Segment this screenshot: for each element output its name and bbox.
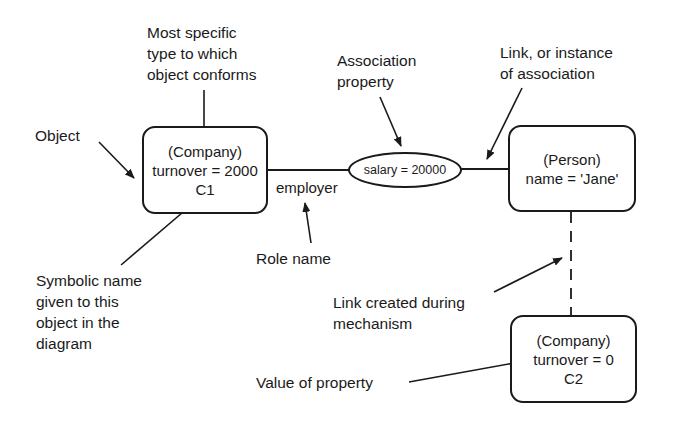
annotation-link-instance: Link, or instance of association bbox=[500, 42, 613, 84]
annotation-object: Object bbox=[35, 125, 80, 146]
annotation-association-property: Association property bbox=[337, 50, 416, 92]
annotation-symbolic-name: Symbolic name given to this object in th… bbox=[36, 270, 142, 354]
object-symbol: C2 bbox=[564, 369, 583, 388]
object-person: (Person) name = 'Jane' bbox=[508, 125, 636, 212]
annotation-link-created: Link created during mechanism bbox=[333, 292, 465, 334]
annotation-role-name: Role name bbox=[256, 248, 331, 269]
object-c2: (Company) turnover = 0 C2 bbox=[510, 315, 637, 403]
object-c1: (Company) turnover = 2000 C1 bbox=[142, 126, 268, 214]
object-type-label: (Person) bbox=[543, 150, 601, 169]
role-name-label: employer bbox=[276, 177, 338, 198]
object-property: name = 'Jane' bbox=[526, 169, 619, 188]
annotation-value-of-property: Value of property bbox=[256, 372, 373, 393]
object-property: turnover = 2000 bbox=[152, 161, 258, 180]
object-property: turnover = 0 bbox=[533, 350, 613, 369]
association-property-ellipse: salary = 20000 bbox=[348, 152, 462, 188]
association-property-value: salary = 20000 bbox=[364, 163, 446, 177]
object-type-label: (Company) bbox=[536, 331, 610, 350]
object-type-label: (Company) bbox=[168, 142, 242, 161]
annotation-most-specific-type: Most specific type to which object confo… bbox=[147, 22, 256, 85]
object-symbol: C1 bbox=[195, 180, 214, 199]
